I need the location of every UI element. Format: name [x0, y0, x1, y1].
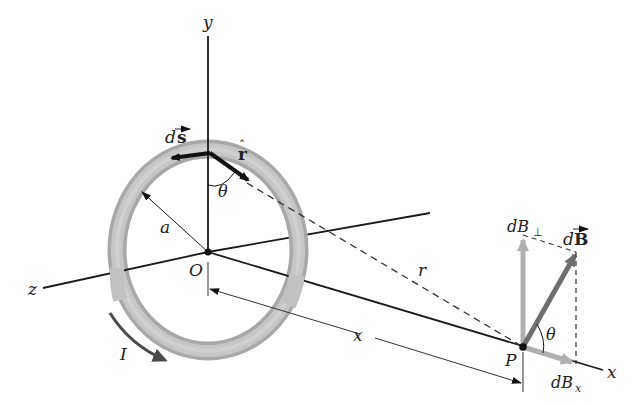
field-point-P: [519, 343, 527, 351]
z-axis-label: z: [27, 279, 38, 299]
r-distance-label: r: [418, 260, 427, 280]
theta-label-loop: θ: [218, 182, 228, 201]
ds-label: d s: [165, 127, 190, 147]
x-axis-label: x: [607, 362, 617, 382]
r-hat-label: r ˆ: [238, 139, 248, 164]
dB-total-B: B: [574, 229, 588, 249]
origin-label: O: [189, 260, 203, 280]
ring-front-left-overlay: [117, 268, 120, 300]
radius-label: a: [160, 217, 170, 237]
dB-x-label: dB x: [551, 373, 582, 395]
dB-x-sub: x: [575, 382, 582, 395]
dB-total-label: d B: [563, 229, 588, 249]
theta-label-P: θ: [546, 325, 556, 344]
back-axis: [208, 213, 430, 252]
ring-front-right-overlay: [288, 275, 297, 305]
current-label: I: [119, 344, 127, 364]
dB-total-d: d: [563, 229, 574, 249]
ds-label-d: d: [165, 127, 176, 147]
radius-line: [142, 192, 208, 252]
dB-perp-label: dB ⊥: [507, 217, 543, 239]
current-loop-diagram: y z x O P a I θ d s r ˆ r x dB ⊥ d B dB …: [0, 0, 632, 404]
dB-perp-main: dB: [507, 217, 529, 236]
origin-point: [205, 249, 212, 256]
theta-arc-P: [537, 324, 544, 353]
x-distance-label: x: [353, 325, 363, 345]
ds-label-s: s: [177, 127, 187, 147]
dB-x-main: dB: [551, 373, 573, 392]
x-dimension-right: [375, 338, 521, 383]
field-point-label: P: [504, 350, 517, 370]
dB-perp-sub: ⊥: [533, 226, 543, 239]
dB-x-vector: [523, 347, 572, 362]
r-hat-caret: ˆ: [239, 139, 245, 153]
r-dashed-line: [247, 183, 523, 347]
y-axis-label: y: [202, 12, 213, 32]
